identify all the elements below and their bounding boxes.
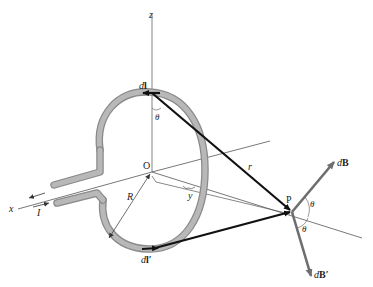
theta-top-label: θ bbox=[155, 112, 160, 122]
current-arrow-out bbox=[29, 193, 45, 198]
current-loop bbox=[54, 92, 205, 249]
current-label: I bbox=[36, 207, 41, 218]
dBprime-label: dB′ bbox=[314, 269, 329, 280]
dBprime-vector bbox=[292, 212, 311, 276]
current-loop-diagram: z x y I O R dl θ r dl′ P bbox=[0, 0, 373, 287]
z-axis-label: z bbox=[148, 9, 153, 20]
origin-label: O bbox=[143, 160, 150, 171]
theta-p-upper-label: θ bbox=[310, 199, 315, 209]
radius-label: R bbox=[126, 191, 133, 202]
current-arrow-in bbox=[33, 203, 49, 207]
theta-top-arc bbox=[152, 108, 161, 110]
theta-p-upper-arc bbox=[305, 197, 309, 217]
x-axis-label: x bbox=[8, 203, 14, 214]
r-vector-top bbox=[152, 93, 290, 210]
dl-bottom-label: dl′ bbox=[141, 254, 152, 265]
y-label: y bbox=[187, 190, 193, 201]
r-label: r bbox=[248, 161, 252, 172]
radius-arrow bbox=[109, 174, 150, 238]
y-dimension-bracket bbox=[152, 176, 290, 214]
y-brace bbox=[183, 186, 195, 189]
point-p-label: P bbox=[286, 194, 292, 205]
dl-top-label: dl bbox=[139, 80, 147, 91]
r-vector-bottom bbox=[155, 212, 290, 248]
dB-label: dB bbox=[337, 157, 349, 168]
theta-p-lower-label: θ bbox=[302, 224, 307, 234]
plane-line bbox=[152, 141, 270, 172]
